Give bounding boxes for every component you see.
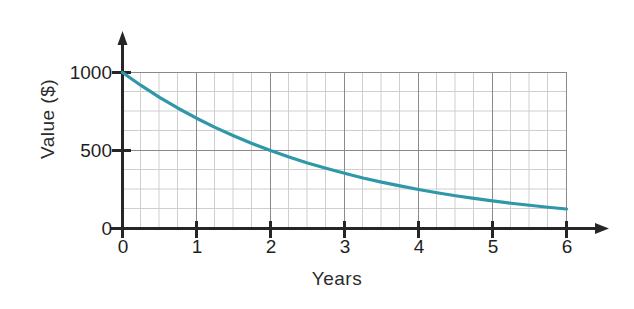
x-tick-label-4: 4 — [404, 236, 434, 258]
y-axis-arrow-icon — [118, 31, 128, 45]
x-tick-label-1: 1 — [182, 236, 212, 258]
x-tick-label-5: 5 — [478, 236, 508, 258]
value-decay-chart: 1000 500 0 0 1 2 3 4 5 6 Value ($) Years — [0, 0, 634, 309]
y-tick-label-500: 500 — [52, 140, 112, 162]
x-tick-label-0: 0 — [108, 236, 138, 258]
y-axis — [118, 31, 128, 228]
x-tick-label-2: 2 — [256, 236, 286, 258]
x-tick-label-3: 3 — [330, 236, 360, 258]
y-axis-title: Value ($) — [37, 59, 59, 179]
y-tick-label-0: 0 — [52, 218, 112, 240]
x-axis-title: Years — [297, 268, 377, 290]
x-axis-arrow-icon — [595, 223, 609, 234]
x-axis — [110, 223, 609, 234]
x-tick-label-6: 6 — [552, 236, 582, 258]
y-tick-label-1000: 1000 — [52, 62, 112, 84]
